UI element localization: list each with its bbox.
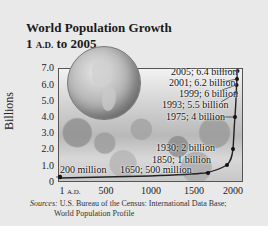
source-line2: World Population Profile — [30, 209, 227, 219]
annotation-1999: 1999; 6 billion — [179, 88, 238, 99]
annotation-1930: 1930; 2 billion — [156, 142, 215, 153]
annotation-1ad: 200 million — [60, 164, 106, 175]
source-note: Sources: U.S. Bureau of the Census: Inte… — [30, 199, 227, 219]
annotation-2005: 2005; 6.4 billion — [171, 66, 237, 77]
annotation-2001: 2001; 6.2 billion — [169, 77, 235, 88]
source-prefix: Sources: — [30, 199, 58, 208]
source-line1: U.S. Bureau of the Census: International… — [58, 199, 227, 208]
annotation-1993: 1993; 5.5 billion — [162, 99, 228, 110]
annotation-1650: 1650; 500 million — [120, 164, 192, 175]
annotation-1975: 1975; 4 billion — [166, 111, 225, 122]
